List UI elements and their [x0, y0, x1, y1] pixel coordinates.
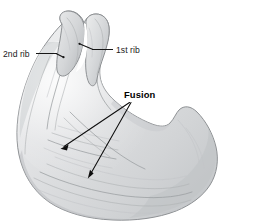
second-rib-leader-dot — [62, 56, 64, 58]
rib-fusion-figure: 2nd rib 1st rib Fusion — [0, 0, 253, 224]
label-second-rib: 2nd rib — [3, 49, 30, 59]
label-fusion: Fusion — [124, 89, 155, 100]
first-rib-leader-dot — [78, 43, 80, 45]
bone-illustration — [8, 11, 217, 220]
anatomical-illustration: 2nd rib 1st rib Fusion — [0, 0, 253, 224]
label-first-rib: 1st rib — [116, 45, 140, 55]
